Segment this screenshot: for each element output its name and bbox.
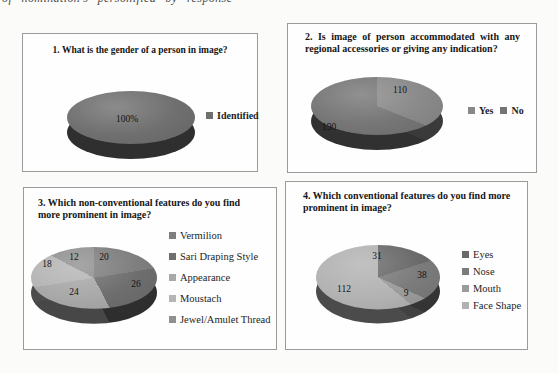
question-panel-4: 4. Which conventional features do you fi… bbox=[285, 181, 528, 350]
legend-item: Appearance bbox=[169, 272, 271, 283]
slice-value-label: 38 bbox=[417, 270, 427, 280]
figure-caption-fragment: of nomination's personified by response bbox=[2, 0, 232, 6]
legend-4: Eyes Nose Mouth Face Shape bbox=[462, 249, 521, 311]
chart-title-4: 4. Which conventional features do you fi… bbox=[303, 190, 515, 214]
slice-value-label: 110 bbox=[393, 85, 407, 95]
chart-title-1: 1. What is the gender of a person in ima… bbox=[33, 45, 247, 55]
slice-value-label: 112 bbox=[337, 284, 351, 294]
legend-3: Vermilion Sari Draping Style Appearance … bbox=[169, 230, 271, 325]
legend-item: Face Shape bbox=[462, 300, 521, 311]
legend-swatch-icon bbox=[169, 316, 176, 323]
slice-value-label: 26 bbox=[131, 279, 141, 289]
legend-item: Mouth bbox=[462, 283, 521, 294]
figure-caption: of nomination's personified by response bbox=[0, 0, 430, 7]
legend-item: Sari Draping Style bbox=[169, 251, 271, 262]
legend-swatch-icon bbox=[169, 232, 176, 239]
legend-2: Yes No bbox=[468, 105, 524, 116]
legend-item: Vermilion bbox=[169, 230, 271, 241]
legend-item: Identified bbox=[206, 110, 259, 121]
slice-value-label: 18 bbox=[42, 259, 52, 269]
pie-top bbox=[31, 247, 157, 309]
pie-chart-nonconventional-features: 20 26 24 18 12 bbox=[31, 247, 157, 325]
legend-label: Sari Draping Style bbox=[180, 251, 258, 262]
question-panel-3: 3. Which non-conventional features do yo… bbox=[23, 187, 277, 350]
legend-swatch-icon bbox=[462, 302, 469, 309]
legend-label: Appearance bbox=[180, 272, 230, 283]
slice-value-label: 9 bbox=[404, 288, 409, 298]
legend-swatch-icon bbox=[169, 274, 176, 281]
question-panel-1: 1. What is the gender of a person in ima… bbox=[22, 33, 258, 172]
slice-value-label: 100% bbox=[116, 114, 138, 124]
pie-chart-gender: 100% bbox=[67, 91, 195, 161]
slice-value-label: 20 bbox=[99, 252, 109, 262]
legend-item: Eyes bbox=[462, 249, 521, 260]
legend-item: Moustach bbox=[169, 293, 271, 304]
chart-title-2: 2. Is image of person accommodated with … bbox=[305, 31, 520, 55]
pie-chart-conventional-features: 31 38 9 112 bbox=[316, 245, 440, 325]
question-panel-2: 2. Is image of person accommodated with … bbox=[287, 23, 537, 173]
legend-label: Identified bbox=[217, 110, 259, 121]
legend-item: Jewel/Amulet Thread bbox=[169, 314, 271, 325]
legend-swatch-icon bbox=[206, 112, 213, 119]
legend-label: Face Shape bbox=[473, 300, 521, 311]
slice-value-label: 12 bbox=[69, 252, 79, 262]
legend-swatch-icon bbox=[462, 251, 469, 258]
legend-label: Mouth bbox=[473, 283, 501, 294]
pie-chart-accessories: 110 190 bbox=[311, 77, 443, 152]
slice-value-label: 190 bbox=[322, 122, 336, 132]
legend-swatch-icon bbox=[462, 268, 469, 275]
chart-title-3: 3. Which non-conventional features do yo… bbox=[38, 197, 262, 221]
legend-swatch-icon bbox=[462, 285, 469, 292]
legend-label: Eyes bbox=[473, 249, 493, 260]
legend-label: Vermilion bbox=[180, 230, 222, 241]
legend-label: Moustach bbox=[180, 293, 221, 304]
legend-item: Yes bbox=[468, 105, 493, 116]
legend-label: No bbox=[511, 105, 523, 116]
legend-swatch-icon bbox=[169, 253, 176, 260]
legend-swatch-icon bbox=[169, 295, 176, 302]
legend-label: Jewel/Amulet Thread bbox=[180, 314, 271, 325]
legend-label: Yes bbox=[479, 105, 493, 116]
legend-1: Identified bbox=[206, 110, 259, 121]
legend-item: Nose bbox=[462, 266, 521, 277]
legend-swatch-icon bbox=[500, 107, 507, 114]
legend-item: No bbox=[500, 105, 523, 116]
legend-label: Nose bbox=[473, 266, 495, 277]
slice-value-label: 24 bbox=[69, 287, 79, 297]
legend-swatch-icon bbox=[468, 107, 475, 114]
slice-value-label: 31 bbox=[372, 251, 382, 261]
